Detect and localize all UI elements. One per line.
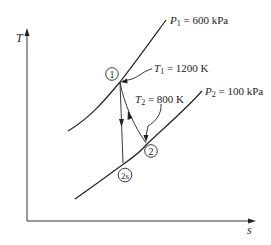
t2-annotation: T2 = 800 K	[135, 93, 184, 142]
t1-annotation: T1 = 1200 K	[121, 62, 209, 84]
state-2s: 2s	[118, 168, 132, 182]
arrow-down-icon	[119, 119, 124, 127]
state-1-label: 1	[110, 69, 115, 80]
state-1: 1	[106, 68, 119, 81]
process-1-2-curve	[120, 82, 146, 143]
ts-diagram: T s P1 = 600 kPa P2 = 100 kPa T1 = 1200 …	[0, 0, 271, 245]
isobar-p2-label: P2 = 100 kPa	[204, 85, 263, 99]
t2-label: T2 = 800 K	[135, 93, 184, 107]
x-axis-label: s	[247, 223, 252, 237]
state-2-label: 2	[149, 146, 154, 157]
isobar-p1-label: P1 = 600 kPa	[169, 14, 228, 28]
t1-label: T1 = 1200 K	[154, 62, 209, 76]
state-2s-label: 2s	[121, 171, 130, 181]
process-1-2s	[119, 82, 124, 163]
state-2: 2	[145, 145, 158, 158]
y-axis-arrow-icon	[25, 28, 30, 36]
t2-leader	[146, 104, 161, 136]
y-axis-label: T	[16, 31, 24, 45]
process-1-2	[120, 82, 146, 143]
axes: T s	[16, 28, 256, 237]
isobar-p2-curve	[75, 91, 202, 199]
